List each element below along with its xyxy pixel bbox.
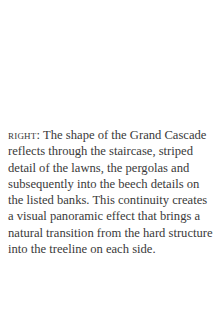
caption-text: The shape of the Grand Cascade reflects … bbox=[8, 128, 213, 256]
caption-label: RIGHT: bbox=[8, 128, 40, 142]
image-caption: RIGHT: The shape of the Grand Cascade re… bbox=[8, 127, 214, 257]
